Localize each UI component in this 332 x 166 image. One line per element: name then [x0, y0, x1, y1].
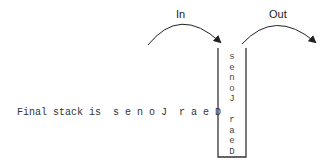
stack-item: s [219, 52, 245, 63]
stack-item [219, 105, 245, 116]
stack-item: r [219, 115, 245, 126]
stack-item: o [219, 84, 245, 95]
stack-item: e [219, 63, 245, 74]
stack-contents: s e n o J r a e D [219, 52, 245, 157]
final-stack-text: Final stack is s e n o J r a e D [17, 107, 221, 118]
out-arrow [242, 25, 315, 44]
stack-item: D [219, 147, 245, 158]
stack-item: n [219, 73, 245, 84]
stack-item: a [219, 126, 245, 137]
in-arrow [148, 24, 220, 45]
stack-item: e [219, 136, 245, 147]
stack-diagram [0, 0, 332, 166]
out-label: Out [269, 8, 287, 20]
stack-item: J [219, 94, 245, 105]
in-label: In [176, 8, 185, 20]
